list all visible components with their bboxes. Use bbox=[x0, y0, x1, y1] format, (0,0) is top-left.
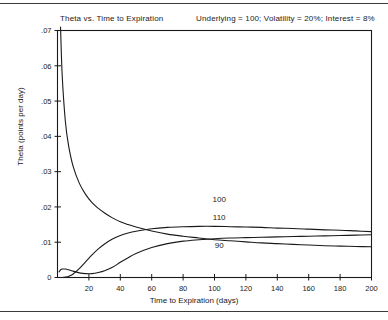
x-tick-label: 120 bbox=[240, 284, 253, 293]
x-tick-label: 200 bbox=[365, 284, 378, 293]
y-tick-label: .05 bbox=[41, 97, 51, 106]
y-tick-label: .03 bbox=[41, 167, 51, 176]
series-labels: 10011090 bbox=[213, 195, 227, 251]
series-label-100: 100 bbox=[213, 195, 227, 204]
y-tick-label: .07 bbox=[41, 26, 51, 35]
x-tick-label: 40 bbox=[116, 284, 124, 293]
x-tick-label: 100 bbox=[208, 284, 221, 293]
x-tick-label: 160 bbox=[302, 284, 315, 293]
y-tick-label: .06 bbox=[41, 62, 51, 71]
x-axis-ticks: 20406080100120140160180200 bbox=[85, 274, 378, 293]
x-tick-label: 140 bbox=[271, 284, 284, 293]
plot-area: 0.01.02.03.04.05.06.07 20406080100120140… bbox=[0, 0, 388, 320]
y-tick-label: .04 bbox=[41, 132, 51, 141]
x-tick-label: 80 bbox=[179, 284, 187, 293]
y-tick-label: .02 bbox=[41, 203, 51, 212]
x-tick-label: 20 bbox=[85, 284, 93, 293]
x-tick-label: 180 bbox=[334, 284, 347, 293]
x-tick-label: 60 bbox=[148, 284, 156, 293]
series-label-110: 110 bbox=[213, 213, 226, 222]
series-label-90: 90 bbox=[215, 241, 224, 250]
figure-container: Theta vs. Time to Expiration Underlying … bbox=[0, 0, 388, 320]
series-curves bbox=[59, 27, 371, 277]
y-tick-label: .01 bbox=[41, 238, 51, 247]
y-tick-label: 0 bbox=[47, 273, 51, 282]
